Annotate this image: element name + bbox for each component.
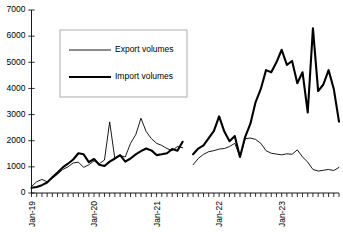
x-axis-labels: Jan-19Jan-20Jan-21Jan-22Jan-23 <box>27 201 287 227</box>
series-line-export-volumes <box>193 138 339 171</box>
y-tick-label: 3000 <box>7 109 26 119</box>
series-line-import-volumes <box>193 28 339 157</box>
legend-label-export-volumes: Export volumes <box>115 44 174 54</box>
chart-canvas: 01000200030004000500060007000 Jan-19Jan-… <box>0 0 343 232</box>
y-tick-label: 5000 <box>7 57 26 67</box>
line-chart: 01000200030004000500060007000 Jan-19Jan-… <box>0 0 343 232</box>
x-axis-ticks <box>32 193 340 197</box>
x-tick-label: Jan-22 <box>214 201 224 227</box>
y-tick-label: 0 <box>21 187 26 197</box>
chart-legend: Export volumes Import volumes <box>60 30 187 97</box>
legend-box <box>60 30 187 97</box>
x-tick-label: Jan-23 <box>277 201 287 227</box>
legend-label-import-volumes: Import volumes <box>115 71 173 81</box>
y-tick-label: 4000 <box>7 83 26 93</box>
x-tick-label: Jan-21 <box>152 201 162 227</box>
y-tick-label: 2000 <box>7 135 26 145</box>
x-axis: Jan-19Jan-20Jan-21Jan-22Jan-23 <box>27 193 339 227</box>
series-line-import-volumes <box>32 142 183 188</box>
x-tick-label: Jan-19 <box>27 201 37 227</box>
y-axis: 01000200030004000500060007000 <box>7 4 35 197</box>
y-tick-label: 6000 <box>7 30 26 40</box>
x-tick-label: Jan-20 <box>89 201 99 227</box>
y-axis-ticks: 01000200030004000500060007000 <box>7 4 35 197</box>
y-tick-label: 7000 <box>7 4 26 14</box>
y-tick-label: 1000 <box>7 161 26 171</box>
